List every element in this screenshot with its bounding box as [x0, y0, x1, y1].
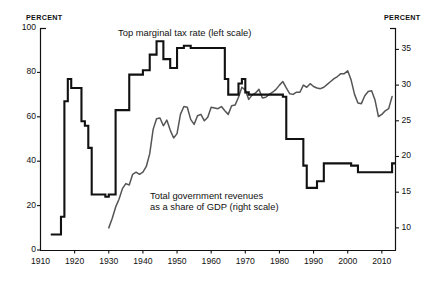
right-axis-unit-label: PERCENT — [384, 13, 420, 22]
tax-rate-series-label: Top marginal tax rate (left scale) — [118, 27, 251, 38]
x-axis-tick-label-1980: 1980 — [264, 256, 294, 266]
left-axis-unit-label: PERCENT — [26, 13, 62, 22]
plot-area — [0, 0, 429, 285]
x-axis-tick-label-1990: 1990 — [299, 256, 329, 266]
right-axis-tick-label-25: 25 — [402, 115, 428, 125]
x-axis-tick-label-1920: 1920 — [60, 256, 90, 266]
right-axis-tick-label-10: 10 — [402, 222, 428, 232]
left-axis-tick-label-40: 40 — [10, 155, 36, 165]
x-axis-tick-label-1940: 1940 — [128, 256, 158, 266]
left-axis-tick-label-100: 100 — [10, 22, 36, 32]
revenue-series-label-line2: as a share of GDP (right scale) — [150, 201, 279, 212]
revenue-series-label: Total government revenuesas a share of G… — [150, 190, 279, 213]
chart-figure: PERCENT PERCENT Top marginal tax rate (l… — [0, 0, 429, 285]
left-axis-tick-label-0: 0 — [10, 244, 36, 254]
x-axis-tick-label-1910: 1910 — [26, 256, 56, 266]
left-axis-tick-label-80: 80 — [10, 66, 36, 76]
left-axis-tick-label-20: 20 — [10, 200, 36, 210]
x-axis-tick-label-2000: 2000 — [333, 256, 363, 266]
right-axis-tick-label-20: 20 — [402, 150, 428, 160]
revenue-series-label-line1: Total government revenues — [150, 190, 263, 201]
x-axis-tick-label-2010: 2010 — [367, 256, 397, 266]
x-axis-tick-label-1950: 1950 — [162, 256, 192, 266]
left-axis-tick-label-60: 60 — [10, 111, 36, 121]
x-axis-tick-label-1960: 1960 — [196, 256, 226, 266]
right-axis-tick-label-35: 35 — [402, 43, 428, 53]
axes-group — [40, 28, 396, 251]
x-axis-tick-label-1930: 1930 — [94, 256, 124, 266]
x-axis-tick-label-1970: 1970 — [230, 256, 260, 266]
right-axis-tick-label-15: 15 — [402, 186, 428, 196]
right-axis-tick-label-30: 30 — [402, 79, 428, 89]
